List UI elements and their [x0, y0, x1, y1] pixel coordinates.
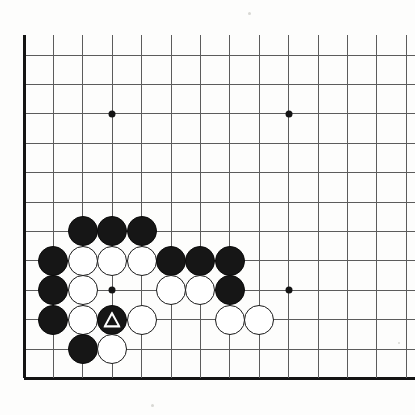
white-stone[interactable]: [156, 275, 186, 305]
scan-speck: [248, 12, 251, 15]
grid-line-vertical: [171, 35, 172, 378]
white-stone[interactable]: [127, 246, 157, 276]
star-point-upper-right-icon: [285, 110, 292, 117]
triangle-marked-black-stone[interactable]: [97, 305, 127, 335]
black-stone[interactable]: [68, 216, 98, 246]
triangle-marker-icon: [104, 312, 121, 329]
grid-line-vertical: [200, 35, 201, 378]
grid-line-vertical: [288, 35, 289, 378]
black-stone[interactable]: [38, 275, 68, 305]
grid-line-vertical: [376, 35, 377, 378]
black-stone[interactable]: [185, 246, 215, 276]
white-stone[interactable]: [215, 305, 245, 335]
star-point-lower-left-icon: [109, 287, 116, 294]
board-surface[interactable]: [0, 0, 415, 415]
scan-speck: [151, 404, 154, 407]
white-stone[interactable]: [68, 246, 98, 276]
white-stone[interactable]: [97, 334, 127, 364]
go-board-diagram: [0, 0, 415, 415]
star-point-lower-right-icon: [285, 287, 292, 294]
white-stone[interactable]: [68, 305, 98, 335]
scan-speck: [398, 342, 400, 344]
board-left-edge: [23, 35, 26, 378]
grid-line-vertical: [347, 35, 348, 378]
star-point-upper-left-icon: [109, 110, 116, 117]
black-stone[interactable]: [215, 275, 245, 305]
black-stone[interactable]: [38, 305, 68, 335]
white-stone[interactable]: [244, 305, 274, 335]
white-stone[interactable]: [127, 305, 157, 335]
grid-line-vertical: [318, 35, 319, 378]
black-stone[interactable]: [127, 216, 157, 246]
black-stone[interactable]: [68, 334, 98, 364]
white-stone[interactable]: [185, 275, 215, 305]
black-stone[interactable]: [97, 216, 127, 246]
white-stone[interactable]: [97, 246, 127, 276]
black-stone[interactable]: [156, 246, 186, 276]
white-stone[interactable]: [68, 275, 98, 305]
grid-line-vertical: [406, 35, 407, 378]
black-stone[interactable]: [215, 246, 245, 276]
black-stone[interactable]: [38, 246, 68, 276]
